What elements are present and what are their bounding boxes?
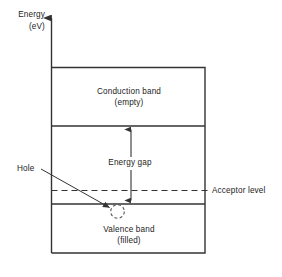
- energy-band-diagram: Energy (eV) Conduction band (empty) Ener…: [0, 0, 282, 277]
- energy-gap-label: Energy gap: [103, 157, 156, 170]
- hole-label: Hole: [17, 164, 34, 175]
- valence-band-label-line2: (filled): [103, 236, 154, 247]
- conduction-band-label: Conduction band (empty): [97, 87, 161, 108]
- conduction-band-label-line1: Conduction band: [97, 87, 161, 98]
- energy-axis-title: Energy (eV): [18, 9, 45, 32]
- energy-axis-title-line1: Energy: [18, 9, 45, 21]
- energy-axis-title-line2: (eV): [18, 21, 45, 33]
- valence-band-label-line1: Valence band: [103, 225, 154, 236]
- acceptor-level-label: Acceptor level: [212, 186, 266, 197]
- hole-marker-icon: [111, 205, 125, 219]
- conduction-band-label-line2: (empty): [97, 98, 161, 109]
- valence-band-label: Valence band (filled): [103, 225, 154, 246]
